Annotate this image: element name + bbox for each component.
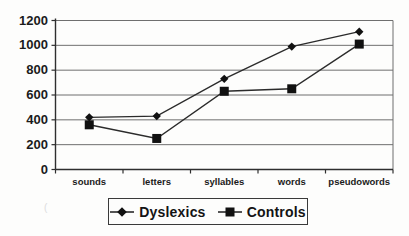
x-axis-label-pseudowords: pseudowords [324,176,394,187]
y-axis-label-400: 400 [4,113,48,127]
y-axis-label-600: 600 [4,88,48,102]
marker-diamond-dyslexics [153,112,161,120]
marker-square-controls [355,40,364,49]
legend-item-dyslexics: Dyslexics [110,204,205,220]
marker-square-controls [220,87,229,96]
legend-item-controls: Controls [218,204,306,220]
y-axis-label-1200: 1200 [4,14,48,28]
legend-label-dyslexics: Dyslexics [139,204,205,220]
marker-diamond-dyslexics [220,75,228,83]
legend: Dyslexics Controls [108,198,308,225]
y-axis-label-800: 800 [4,63,48,77]
x-axis-label-letters: letters [122,176,192,187]
controls-line-square-icon [218,206,242,218]
scan-artifact: ( [44,202,47,213]
marker-diamond-dyslexics [355,27,363,35]
x-axis-label-words: words [257,176,327,187]
x-axis-label-sounds: sounds [54,176,124,187]
legend-label-controls: Controls [247,204,306,220]
marker-diamond-dyslexics [288,42,296,50]
x-axis-label-syllables: syllables [189,176,259,187]
line-chart: 020040060080010001200 soundsletterssylla… [0,0,409,236]
y-axis-label-1000: 1000 [4,38,48,52]
dyslexics-line-diamond-icon [110,206,134,218]
marker-square-controls [287,84,296,93]
series-line-dyslexics [89,32,359,118]
marker-square-controls [85,120,94,129]
y-axis-label-200: 200 [4,138,48,152]
marker-square-controls [152,134,161,143]
y-axis-label-0: 0 [4,163,48,177]
